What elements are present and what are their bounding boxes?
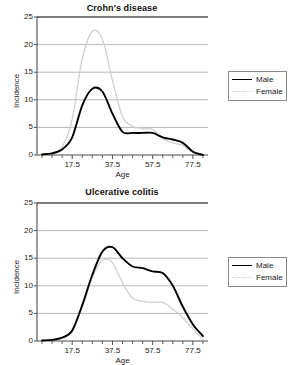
y-tick-label: 5 (7, 122, 33, 131)
x-tick-label: 37.5 (96, 346, 128, 355)
y-tick-label: 25 (7, 12, 33, 21)
x-tick-label: 17.5 (56, 346, 88, 355)
legend-swatch-dotted-line-icon (231, 88, 253, 96)
y-tick-label: 10 (7, 95, 33, 104)
legend-item-female[interactable]: Female (231, 86, 283, 98)
x-tick-label: 77.5 (177, 160, 209, 169)
chart-panel-crohns: Crohn's disease Incidence Age Male Femal… (0, 0, 299, 180)
legend-swatch-solid-line-icon (231, 262, 253, 270)
x-tick-label: 37.5 (96, 160, 128, 169)
series-line-male (42, 247, 203, 341)
y-tick-label: 10 (7, 281, 33, 290)
y-tick-label: 15 (7, 253, 33, 262)
y-tick-label: 25 (7, 198, 33, 207)
x-tick-label: 77.5 (177, 346, 209, 355)
legend-label: Female (256, 273, 283, 283)
series-line-female (42, 30, 203, 155)
legend-swatch-solid-line-icon (231, 76, 253, 84)
legend-swatch-dotted-line-icon (231, 274, 253, 282)
x-tick-label: 17.5 (56, 160, 88, 169)
legend: Male Female (228, 257, 287, 287)
y-tick-label: 20 (7, 40, 33, 49)
legend-label: Male (256, 75, 273, 85)
chart-panel-ulcerative-colitis: Ulcerative colitis Incidence Age Male Fe… (0, 181, 299, 361)
y-tick-label: 0 (7, 336, 33, 345)
y-tick-label: 5 (7, 308, 33, 317)
legend-label: Female (256, 87, 283, 97)
legend: Male Female (228, 71, 287, 101)
y-tick-label: 15 (7, 67, 33, 76)
y-tick-label: 0 (7, 150, 33, 159)
legend-label: Male (256, 261, 273, 271)
legend-item-female[interactable]: Female (231, 272, 283, 284)
x-tick-label: 57.5 (137, 346, 169, 355)
legend-item-male[interactable]: Male (231, 74, 283, 86)
x-tick-label: 57.5 (137, 160, 169, 169)
legend-item-male[interactable]: Male (231, 260, 283, 272)
y-tick-label: 20 (7, 226, 33, 235)
